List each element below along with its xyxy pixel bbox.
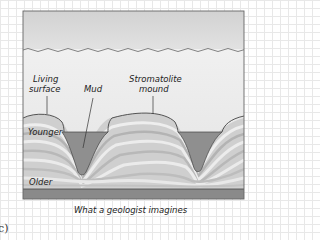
label-surface: surface [29,84,60,94]
cross-section-diagram [0,0,261,238]
label-living: Living [33,74,58,84]
label-mound: mound [139,84,169,94]
label-stromatolite: Stromatolite [129,74,182,84]
figure-caption: What a geologist imagines [0,205,261,215]
air-region [23,11,244,51]
label-older: Older [29,177,52,187]
panel-letter: c) [0,222,8,235]
geology-figure: Living surface Mud Stromatolite mound Yo… [0,0,261,238]
bedrock-band [23,189,244,199]
label-mud: Mud [84,84,102,94]
label-younger: Younger [28,127,62,137]
